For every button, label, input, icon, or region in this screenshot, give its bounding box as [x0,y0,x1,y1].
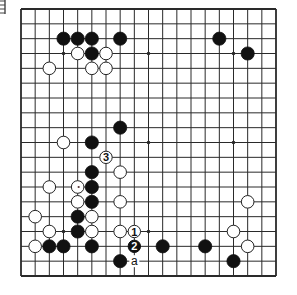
move-number: 3 [103,151,109,163]
black-stone [57,240,70,253]
black-stone [85,180,98,193]
black-stone [85,32,98,45]
star-point [62,230,66,234]
star-point [147,52,151,56]
move-number: 2 [131,240,137,252]
white-stone [43,181,56,194]
black-stone [114,255,127,268]
black-stone [85,240,98,253]
numbered-white-stone: 3 [100,151,112,163]
black-stone [213,32,226,45]
move-number: 1 [131,226,137,238]
numbered-black-stone: 2 [128,240,140,252]
black-stone [85,166,98,179]
go-board: 123a [0,0,297,295]
white-stone [241,240,254,253]
star-point [62,52,66,56]
white-stone [86,62,99,75]
white-stone [86,210,99,223]
white-stone [114,166,127,179]
black-stone [114,121,127,134]
black-stone [57,32,70,45]
black-stone [114,32,127,45]
white-stone [114,225,127,238]
numbered-white-stone: 1 [128,225,140,237]
white-stone [29,210,42,223]
white-stone [29,240,42,253]
black-stone [241,47,254,60]
star-point [147,141,151,145]
black-stone [85,195,98,208]
white-stone [71,47,84,60]
black-stone [71,225,84,238]
white-stone [71,196,84,209]
white-stone [100,47,113,60]
stone-mark-dot [78,186,80,188]
black-stone [85,136,98,149]
white-stone [227,225,240,238]
black-stone [43,240,56,253]
white-stone [114,196,127,209]
letter-label: a [129,254,139,268]
white-stone [241,196,254,209]
black-stone [227,255,240,268]
star-point [232,141,236,145]
black-stone [71,32,84,45]
black-stone [85,47,98,60]
white-stone [86,225,99,238]
white-stone [100,62,113,75]
white-stone [57,136,70,149]
white-stone [43,62,56,75]
adjacent-diagram-fragment [0,0,5,14]
star-point [147,230,151,234]
star-point [232,52,236,56]
label-text: a [131,254,138,268]
white-stone [43,225,56,238]
black-stone [199,240,212,253]
black-stone [71,210,84,223]
go-diagram: 123a [0,0,297,295]
black-stone [156,240,169,253]
